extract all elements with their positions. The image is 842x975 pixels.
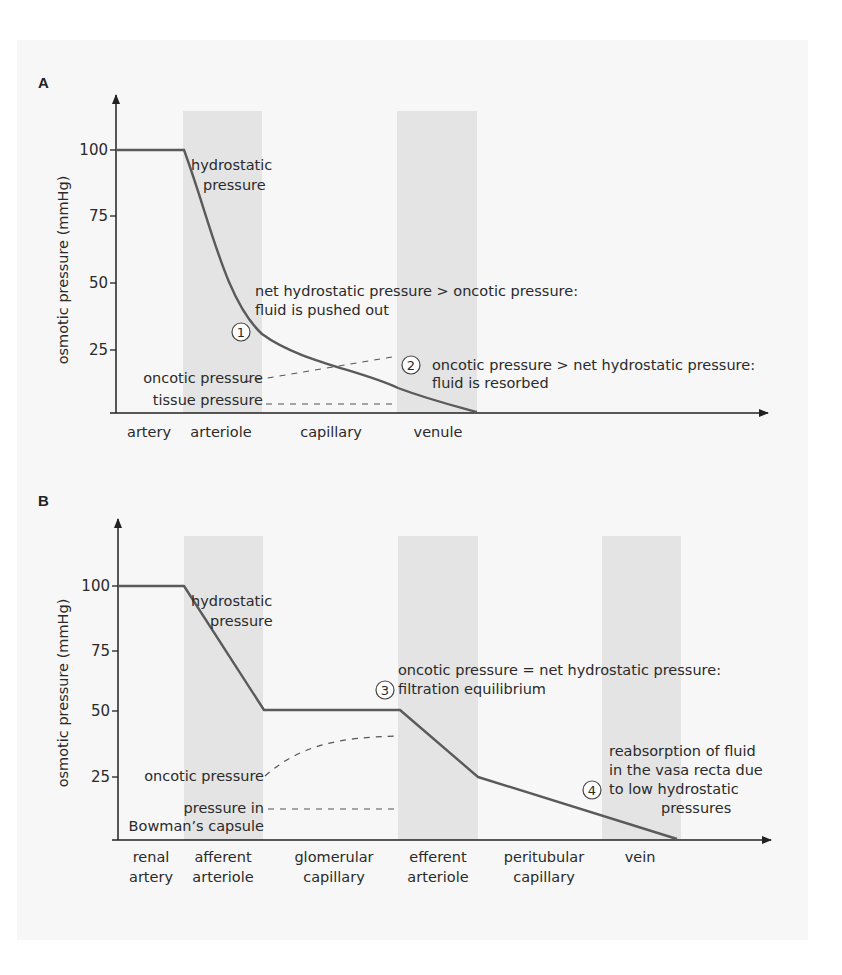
- tissue-pressure-label: tissue pressure: [153, 392, 263, 408]
- hydrostatic-label-line2: pressure: [203, 177, 266, 193]
- bowman-capsule-label-line2: Bowman’s capsule: [129, 818, 264, 834]
- x-cat-capillary: capillary: [300, 424, 362, 440]
- x-cat-artery: artery: [127, 424, 171, 440]
- y-axis-label: osmotic pressure (mmHg): [55, 176, 71, 365]
- hydrostatic-label-line2: pressure: [210, 613, 273, 629]
- note4-line2: in the vasa recta due: [609, 762, 763, 778]
- y-tick-75: 75: [91, 642, 110, 660]
- marker-4-number: 4: [588, 783, 596, 798]
- x-cat-efferent: efferent: [409, 849, 467, 865]
- x-cat-renal: renal: [133, 849, 170, 865]
- figure: A 100 75 50 25 osmotic pressure (mmHg) h…: [0, 0, 842, 975]
- note4-line4: pressures: [661, 800, 731, 816]
- y-ticks: 100 75 50 25: [81, 577, 118, 786]
- x-cat-artery: artery: [129, 869, 173, 885]
- panel-b: B 100 75 50 25 osmotic pressure (mmHg) h…: [38, 492, 771, 885]
- y-tick-25: 25: [89, 341, 108, 359]
- bowman-capsule-label-line1: pressure in: [184, 800, 264, 816]
- x-cat-arteriole-1: arteriole: [192, 869, 253, 885]
- y-tick-75: 75: [89, 207, 108, 225]
- note4-line1: reabsorption of fluid: [609, 743, 756, 759]
- note1-line1: net hydrostatic pressure > oncotic press…: [255, 283, 578, 299]
- panel-a-label: A: [38, 74, 49, 91]
- note4-line3: to low hydrostatic: [609, 781, 739, 797]
- x-cat-arteriole: arteriole: [190, 424, 251, 440]
- marker-1-number: 1: [237, 325, 245, 340]
- hydrostatic-label-line1: hydrostatic: [191, 593, 272, 609]
- note2-line1: oncotic pressure > net hydrostatic press…: [432, 357, 755, 373]
- x-cat-capillary-2: capillary: [513, 869, 575, 885]
- y-tick-50: 50: [91, 702, 110, 720]
- x-categories: artery arteriole capillary venule: [127, 424, 462, 440]
- x-cat-afferent: afferent: [194, 849, 252, 865]
- y-tick-100: 100: [81, 577, 110, 595]
- x-cat-glomerular: glomerular: [294, 849, 373, 865]
- y-tick-100: 100: [79, 141, 108, 159]
- note3-line1: oncotic pressure = net hydrostatic press…: [398, 662, 721, 678]
- note2-line2: fluid is resorbed: [432, 375, 549, 391]
- y-axis-label: osmotic pressure (mmHg): [55, 599, 71, 788]
- oncotic-pressure-line: [265, 736, 400, 776]
- x-cat-arteriole-2: arteriole: [407, 869, 468, 885]
- panel-a: A 100 75 50 25 osmotic pressure (mmHg) h…: [38, 74, 768, 440]
- marker-2-number: 2: [407, 358, 415, 373]
- y-tick-50: 50: [89, 274, 108, 292]
- note1-line2: fluid is pushed out: [255, 302, 389, 318]
- y-ticks: 100 75 50 25: [79, 141, 116, 359]
- x-cat-vein: vein: [625, 849, 656, 865]
- oncotic-pressure-label: oncotic pressure: [144, 768, 264, 784]
- hydrostatic-label-line1: hydrostatic: [191, 157, 272, 173]
- oncotic-pressure-label: oncotic pressure: [143, 370, 263, 386]
- y-tick-25: 25: [91, 768, 110, 786]
- panel-b-label: B: [38, 492, 49, 509]
- marker-3-number: 3: [381, 683, 389, 698]
- x-cat-capillary-1: capillary: [303, 869, 365, 885]
- note3-line2: filtration equilibrium: [398, 681, 546, 697]
- x-cat-venule: venule: [414, 424, 463, 440]
- x-cat-peritubular: peritubular: [504, 849, 584, 865]
- x-categories: renal artery afferent arteriole glomerul…: [129, 849, 655, 885]
